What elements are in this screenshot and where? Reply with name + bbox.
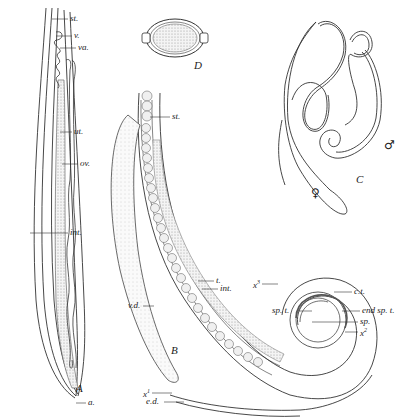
label-b-spicule-tube: sp. t. bbox=[272, 306, 289, 315]
panel-c-label: C bbox=[356, 174, 363, 185]
label-a-ovary: ov. bbox=[80, 159, 90, 168]
panel-c-worms bbox=[279, 21, 382, 214]
panel-b-label: B bbox=[171, 345, 178, 356]
label-b-stomach: st. bbox=[172, 112, 180, 121]
label-b-x3: x3 bbox=[253, 279, 260, 290]
label-a-anus: a. bbox=[88, 398, 95, 407]
figure-canvas bbox=[0, 0, 408, 418]
panel-d-egg bbox=[142, 19, 208, 57]
label-b-ejaculatory-duct: e.d. bbox=[146, 397, 159, 406]
label-a-stomach: st. bbox=[70, 14, 78, 23]
label-b-spicule: sp. bbox=[360, 317, 370, 326]
label-b-x2: x2 bbox=[360, 327, 367, 338]
label-a-vulva: v. bbox=[74, 31, 80, 40]
label-b-vas-deferens: v.d. bbox=[128, 301, 140, 310]
label-a-uterus: ut. bbox=[74, 127, 83, 136]
label-b-intestine: int. bbox=[220, 284, 232, 293]
male-symbol-icon: ♂ bbox=[384, 139, 395, 151]
female-symbol-icon: ♀ bbox=[311, 187, 320, 199]
panel-d-label: D bbox=[194, 60, 202, 71]
label-b-cloacal-tube: c.t. bbox=[354, 287, 365, 296]
label-a-intestine: int. bbox=[70, 228, 82, 237]
panel-b-worm bbox=[111, 93, 377, 416]
panel-b-testis-beads bbox=[142, 91, 263, 367]
label-b-end-spicule-tube: end sp. t. bbox=[362, 306, 395, 315]
panel-a-label: A bbox=[76, 383, 83, 394]
panel-a-worm bbox=[34, 8, 85, 398]
label-a-vagina: va. bbox=[78, 43, 89, 52]
